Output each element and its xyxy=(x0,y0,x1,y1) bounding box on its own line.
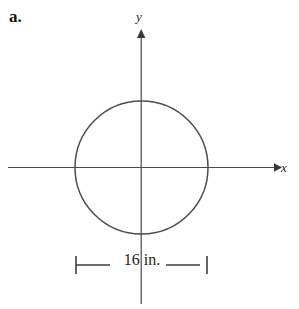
y-axis-arrowhead-icon xyxy=(137,29,145,38)
y-axis-label: y xyxy=(136,10,142,23)
x-axis-label: x xyxy=(281,161,287,174)
dimension-label: 16 in. xyxy=(75,252,209,268)
figure-panel: a. y x 16 in. xyxy=(0,0,299,309)
